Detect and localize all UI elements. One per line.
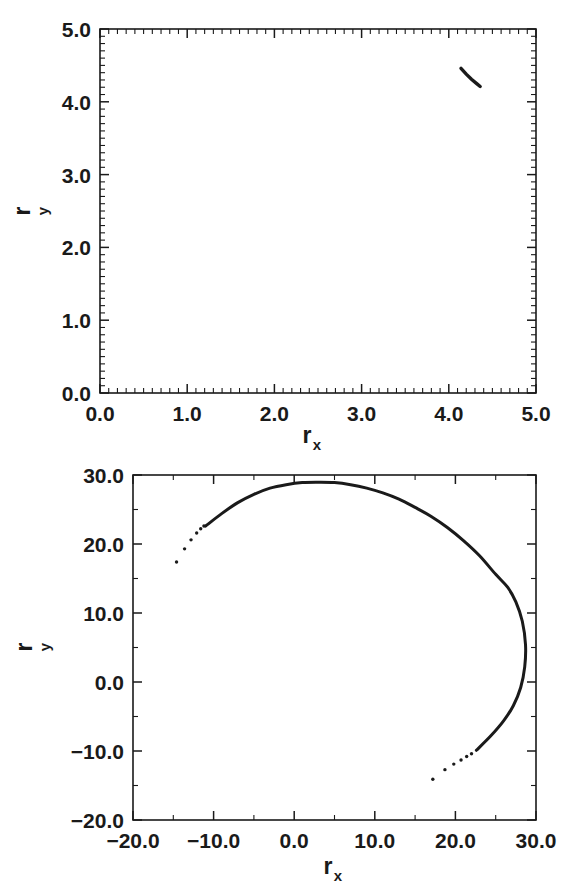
data-point (465, 755, 468, 758)
data-point (195, 531, 198, 534)
y-tick-label: 0.0 (95, 671, 124, 694)
data-point (431, 778, 434, 781)
x-tick-label: 3.0 (347, 402, 376, 425)
lower-yaxis-title: r y (11, 642, 53, 651)
x-tick-label: 4.0 (434, 402, 463, 425)
upper-yaxis-title: r y (9, 206, 51, 215)
lower-plot-tick-labels: −20.0−10.00.010.020.030.0−20.0−10.00.010… (71, 464, 557, 852)
x-tick-label: 2.0 (260, 402, 289, 425)
y-tick-label: 2.0 (62, 236, 91, 259)
data-line-segment (461, 68, 480, 86)
y-tick-label: 20.0 (83, 533, 124, 556)
x-tick-label: −10.0 (187, 829, 240, 852)
data-point (452, 762, 455, 765)
y-tick-label: −20.0 (71, 809, 124, 832)
x-tick-label: 30.0 (516, 829, 557, 852)
y-tick-label: 30.0 (83, 464, 124, 487)
x-tick-label: 1.0 (173, 402, 202, 425)
y-tick-label: 5.0 (62, 18, 91, 41)
y-tick-label: −10.0 (71, 740, 124, 763)
lower-plot-data (175, 482, 526, 781)
upper-yaxis-title-sub: y (34, 206, 51, 215)
y-tick-label: 4.0 (62, 91, 91, 114)
figure-container: 0.01.02.03.04.05.00.01.02.03.04.05.0 r x… (0, 0, 578, 886)
lower-yaxis-title-base: r (11, 642, 37, 651)
y-tick-label: 10.0 (83, 602, 124, 625)
upper-plot-data (461, 68, 480, 86)
lower-xaxis-title-sub: x (334, 867, 343, 884)
lower-yaxis-title-sub: y (36, 642, 53, 651)
lower-xaxis-title-base: r (324, 853, 333, 879)
data-point (189, 538, 192, 541)
data-point (443, 768, 446, 771)
data-point (199, 527, 202, 530)
lower-plot-ticks (133, 475, 536, 820)
upper-yaxis-title-base: r (9, 206, 35, 215)
data-point (183, 547, 186, 550)
data-curve-path (206, 482, 526, 750)
y-tick-label: 3.0 (62, 164, 91, 187)
lower-plot-svg: −20.0−10.00.010.020.030.0−20.0−10.00.010… (0, 440, 578, 886)
x-tick-label: 5.0 (521, 402, 550, 425)
data-point (470, 752, 473, 755)
x-tick-label: 10.0 (354, 829, 395, 852)
upper-plot-svg: 0.01.02.03.04.05.00.01.02.03.04.05.0 r x… (0, 0, 578, 450)
lower-plot-panel: −20.0−10.00.010.020.030.0−20.0−10.00.010… (0, 440, 578, 886)
data-point (459, 758, 462, 761)
lower-plot-frame (133, 475, 536, 820)
upper-plot-ticks (100, 29, 536, 393)
y-tick-label: 0.0 (62, 382, 91, 405)
x-tick-label: −20.0 (106, 829, 159, 852)
upper-plot-frame (100, 29, 536, 393)
upper-plot-tick-labels: 0.01.02.03.04.05.00.01.02.03.04.05.0 (62, 18, 551, 425)
data-point (202, 524, 205, 527)
y-tick-label: 1.0 (62, 309, 91, 332)
lower-xaxis-title: r x (324, 853, 343, 884)
x-tick-label: 0.0 (85, 402, 114, 425)
x-tick-label: 20.0 (435, 829, 476, 852)
data-point (175, 560, 178, 563)
upper-plot-panel: 0.01.02.03.04.05.00.01.02.03.04.05.0 r x… (0, 0, 578, 450)
x-tick-label: 0.0 (280, 829, 309, 852)
